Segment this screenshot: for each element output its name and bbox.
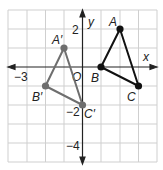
label-c-prime: C′ xyxy=(84,107,96,121)
label-a: A xyxy=(108,15,117,29)
coordinate-plane: y x O −3 2 −2 −4 A′ B′ C′ A B C xyxy=(0,0,163,170)
label-b: B xyxy=(91,71,99,85)
x-tick-neg3: −3 xyxy=(14,70,28,84)
label-a-prime: A′ xyxy=(51,33,63,47)
point-b-prime xyxy=(42,82,49,89)
y-axis-label: y xyxy=(87,15,95,29)
y-tick-2: 2 xyxy=(72,23,79,37)
point-a xyxy=(116,25,123,32)
y-tick-neg2: −2 xyxy=(66,105,80,119)
point-b xyxy=(97,63,104,70)
y-axis xyxy=(80,10,85,164)
y-tick-neg4: −4 xyxy=(66,139,80,153)
label-b-prime: B′ xyxy=(32,90,43,104)
x-axis-label: x xyxy=(142,50,150,64)
label-c: C xyxy=(127,90,136,104)
point-c xyxy=(135,82,142,89)
